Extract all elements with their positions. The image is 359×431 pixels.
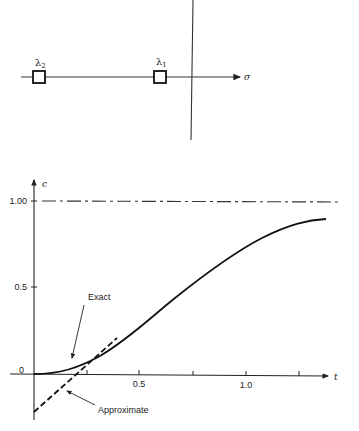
c-axis-label: c [42, 179, 47, 189]
approximate-annotation: Approximate [98, 405, 149, 415]
pole-lambda2-label: λ2 [35, 57, 46, 70]
ytick-label-0: 0 [19, 365, 24, 375]
xtick-label-1-0: 1.0 [240, 380, 253, 390]
ytick-label-1: 1.00 [9, 196, 27, 206]
ytick-label-0-5: 0.5 [14, 282, 27, 292]
exact-curve [34, 219, 326, 374]
exact-pointer-arrow [72, 305, 84, 358]
steady-state-line [42, 201, 340, 202]
t-axis [10, 374, 328, 376]
exact-annotation: Exact [88, 292, 111, 302]
jw-axis [191, 0, 193, 140]
pole-lambda2-marker [33, 71, 45, 83]
s-plane-diagram: σ λ2 λ1 [21, 0, 251, 140]
response-plot: c t 1.00 0.5 0 0.5 1.0 Exact Approximate [9, 179, 340, 420]
pole-lambda1-label: λ1 [156, 56, 167, 69]
sigma-axis-label: σ [244, 72, 251, 82]
figure: σ λ2 λ1 c t 1.00 0.5 0 0.5 1.0 E [0, 0, 359, 431]
t-axis-label: t [334, 372, 338, 382]
pole-lambda1-marker [154, 71, 166, 83]
approximate-pointer-arrow [67, 391, 95, 405]
xtick-label-0-5: 0.5 [133, 379, 146, 389]
